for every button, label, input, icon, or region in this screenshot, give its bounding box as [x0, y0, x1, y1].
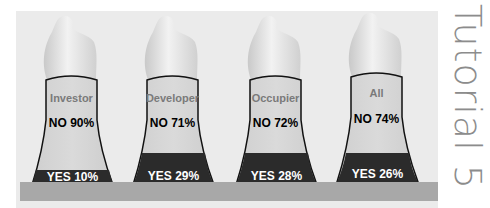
yes-label: YES 26% — [352, 167, 404, 181]
tower-all: All NO 74% YES 26% — [337, 13, 418, 182]
category-label: Developer — [146, 92, 200, 104]
yes-label: YES 10% — [47, 170, 99, 184]
steam-icon — [145, 16, 198, 80]
category-label: All — [369, 87, 383, 99]
no-label: NO 90% — [49, 116, 95, 130]
tower-developer: Developer NO 71% YES 29% — [133, 16, 214, 185]
yes-label: YES 29% — [148, 169, 200, 183]
no-label: NO 74% — [354, 112, 400, 126]
steam-icon — [248, 16, 301, 80]
category-label: Investor — [50, 92, 94, 104]
yes-label: YES 28% — [251, 169, 303, 183]
cooling-tower-chart: Investor NO 90% YES 10% Developer NO 71%… — [0, 0, 440, 208]
no-label: NO 71% — [150, 116, 196, 130]
tower-investor: Investor NO 90% YES 10% — [32, 16, 113, 185]
steam-icon — [44, 16, 97, 80]
category-label: Occupier — [252, 92, 300, 104]
side-title: Tutorial 5 — [446, 4, 490, 204]
ground-bar — [20, 182, 438, 201]
steam-icon — [349, 13, 402, 77]
tower-occupier: Occupier NO 72% YES 28% — [236, 16, 317, 185]
no-label: NO 72% — [253, 116, 299, 130]
